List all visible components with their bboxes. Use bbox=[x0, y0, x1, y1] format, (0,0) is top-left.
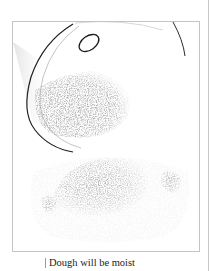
glass-rim-right bbox=[173, 22, 185, 56]
caption-text: Dough will be moist bbox=[49, 257, 135, 268]
caption-marker bbox=[45, 258, 46, 268]
page-margin-rule bbox=[208, 0, 209, 271]
glass-rim-top bbox=[75, 22, 163, 30]
figure-caption: Dough will be moist bbox=[45, 256, 135, 269]
glass-base-ring bbox=[76, 31, 102, 55]
crumb-dust bbox=[31, 157, 190, 242]
dough-illustration bbox=[13, 22, 199, 251]
crumbs-in-bowl bbox=[35, 71, 131, 138]
figure-frame bbox=[12, 21, 200, 252]
